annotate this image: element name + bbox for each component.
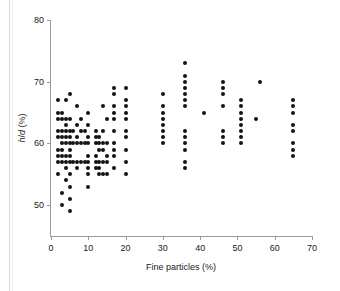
data-point bbox=[239, 104, 243, 108]
data-point bbox=[239, 123, 243, 127]
data-point bbox=[161, 92, 165, 96]
data-point bbox=[221, 129, 225, 133]
data-point bbox=[71, 129, 75, 133]
y-axis-tick bbox=[47, 20, 51, 21]
data-point bbox=[291, 148, 295, 152]
data-point bbox=[239, 111, 243, 115]
data-point bbox=[60, 111, 64, 115]
data-point bbox=[291, 129, 295, 133]
data-point bbox=[239, 135, 243, 139]
data-point bbox=[161, 141, 165, 145]
data-point bbox=[60, 203, 64, 207]
data-point bbox=[183, 104, 187, 108]
data-point bbox=[112, 117, 116, 121]
data-point bbox=[64, 166, 68, 170]
y-axis-tick-label: 60 bbox=[34, 138, 44, 148]
data-point bbox=[112, 141, 116, 145]
data-point bbox=[112, 104, 116, 108]
data-point bbox=[64, 98, 68, 102]
data-point bbox=[56, 172, 60, 176]
data-point bbox=[161, 111, 165, 115]
data-point bbox=[101, 148, 105, 152]
data-point bbox=[56, 98, 60, 102]
data-point bbox=[202, 111, 206, 115]
data-point bbox=[258, 80, 262, 84]
y-axis-label-h: h bbox=[17, 138, 27, 143]
x-axis-tick bbox=[126, 236, 127, 240]
data-point bbox=[161, 123, 165, 127]
data-point bbox=[183, 160, 187, 164]
data-point bbox=[291, 123, 295, 127]
data-point bbox=[79, 117, 83, 121]
y-axis-tick bbox=[47, 205, 51, 206]
data-point bbox=[161, 104, 165, 108]
data-point bbox=[86, 154, 90, 158]
data-point bbox=[105, 172, 109, 176]
x-axis-tick-label: 30 bbox=[158, 243, 168, 253]
data-point bbox=[124, 148, 128, 152]
x-axis-tick-label: 40 bbox=[195, 243, 205, 253]
data-point bbox=[86, 185, 90, 189]
data-point bbox=[183, 92, 187, 96]
data-point bbox=[183, 61, 187, 65]
data-point bbox=[291, 98, 295, 102]
data-point bbox=[68, 92, 72, 96]
data-point bbox=[68, 117, 72, 121]
data-point bbox=[86, 135, 90, 139]
x-axis-label: Fine particles (%) bbox=[146, 262, 216, 272]
data-point bbox=[86, 160, 90, 164]
y-axis-label-d: d bbox=[17, 130, 27, 135]
data-point bbox=[291, 141, 295, 145]
data-point bbox=[75, 166, 79, 170]
x-axis-tick-label: 70 bbox=[307, 243, 317, 253]
page-gutter-line-secondary bbox=[12, 0, 13, 291]
data-point bbox=[221, 80, 225, 84]
data-point bbox=[60, 148, 64, 152]
x-axis-tick bbox=[51, 236, 52, 240]
data-point bbox=[124, 111, 128, 115]
data-point bbox=[97, 166, 101, 170]
y-axis-tick bbox=[47, 143, 51, 144]
data-point bbox=[239, 98, 243, 102]
data-point bbox=[101, 129, 105, 133]
data-point bbox=[68, 185, 72, 189]
data-point bbox=[101, 104, 105, 108]
data-point bbox=[105, 160, 109, 164]
data-point bbox=[68, 135, 72, 139]
y-axis-tick-label: 70 bbox=[34, 77, 44, 87]
data-point bbox=[112, 148, 116, 152]
data-point bbox=[183, 98, 187, 102]
data-point bbox=[86, 123, 90, 127]
data-point bbox=[183, 148, 187, 152]
y-axis-tick-label: 80 bbox=[34, 15, 44, 25]
data-point bbox=[291, 104, 295, 108]
data-point bbox=[112, 129, 116, 133]
data-point bbox=[239, 141, 243, 145]
data-point bbox=[221, 86, 225, 90]
data-point bbox=[254, 117, 258, 121]
figure-scatter-plot: h/d (%) Fine particles (%) 5060708001020… bbox=[0, 0, 340, 291]
data-point bbox=[124, 135, 128, 139]
data-point bbox=[221, 92, 225, 96]
x-axis-tick-label: 0 bbox=[48, 243, 53, 253]
data-point bbox=[183, 141, 187, 145]
data-point bbox=[183, 129, 187, 133]
data-point bbox=[68, 154, 72, 158]
x-axis-tick bbox=[312, 236, 313, 240]
data-point bbox=[183, 135, 187, 139]
data-point bbox=[124, 86, 128, 90]
data-point bbox=[221, 104, 225, 108]
data-point bbox=[124, 117, 128, 121]
plot-area: 50607080010203040506070 bbox=[50, 20, 312, 237]
x-axis-tick bbox=[200, 236, 201, 240]
data-point bbox=[68, 209, 72, 213]
x-axis-tick bbox=[163, 236, 164, 240]
data-point bbox=[183, 74, 187, 78]
data-point bbox=[68, 172, 72, 176]
y-axis-label-slash: / bbox=[17, 135, 27, 138]
data-point bbox=[83, 129, 87, 133]
data-point bbox=[183, 166, 187, 170]
data-point bbox=[105, 154, 109, 158]
data-point bbox=[86, 172, 90, 176]
data-point bbox=[105, 117, 109, 121]
